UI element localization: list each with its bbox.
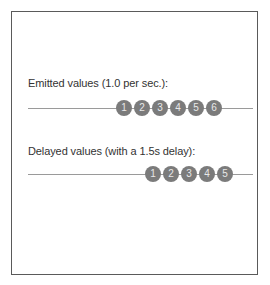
delayed-marble: 2 xyxy=(163,166,179,182)
delayed-marble: 1 xyxy=(145,166,161,182)
emitted-marble: 3 xyxy=(152,100,168,116)
emitted-label: Emitted values (1.0 per sec.): xyxy=(28,77,168,89)
emitted-marble: 1 xyxy=(116,100,132,116)
marble-diagram-frame xyxy=(11,11,258,275)
emitted-marble: 6 xyxy=(206,100,222,116)
delayed-marble: 5 xyxy=(217,166,233,182)
emitted-marble: 5 xyxy=(188,100,204,116)
delayed-marble: 4 xyxy=(199,166,215,182)
delayed-marble: 3 xyxy=(181,166,197,182)
emitted-marble: 4 xyxy=(170,100,186,116)
delayed-label: Delayed values (with a 1.5s delay): xyxy=(28,145,195,157)
emitted-marble: 2 xyxy=(134,100,150,116)
